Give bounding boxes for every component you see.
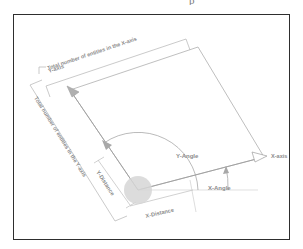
label-total-y-entities: Total number of entities in the Y-axis bbox=[33, 95, 88, 178]
x-axis-ray bbox=[138, 152, 267, 190]
label-x-angle: X-Angle bbox=[208, 185, 231, 191]
figure-page: p bbox=[0, 0, 303, 249]
label-y-distance: Y-Distance bbox=[95, 169, 116, 196]
y-axis-tick-bracket bbox=[39, 67, 46, 74]
label-y-angle: Y-Angle bbox=[176, 153, 199, 159]
coordinate-diagram: Total number of entities in the X-axis T… bbox=[0, 0, 303, 249]
x-entities-dimension-bracket bbox=[46, 39, 190, 97]
label-x-distance: X-Distance bbox=[145, 207, 175, 219]
label-x-axis: X-axis bbox=[271, 153, 287, 159]
y-angle-arc bbox=[102, 132, 198, 190]
origin-marker bbox=[124, 176, 152, 204]
y-entities-dimension-bracket bbox=[30, 80, 127, 221]
